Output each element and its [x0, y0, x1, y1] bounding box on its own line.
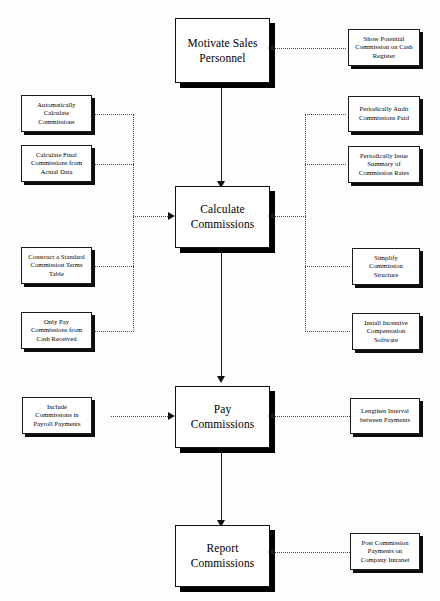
improvement-box-cash-register[interactable]: Show PotentialCommission on CashRegister [348, 29, 420, 66]
improvement-box-cash-received-label: Only PayCommissions fromCash Received [22, 318, 91, 344]
improvement-box-lengthen-label: Lengthen Intervalbetween Payments [351, 407, 419, 424]
connector-summary-rates-branch [305, 164, 346, 165]
improvement-box-intranet[interactable]: Post CommissionPayments onCompany Intran… [350, 533, 420, 570]
improvement-box-auto-calc[interactable]: AutomaticallyCalculateCommissions [21, 95, 92, 132]
improvement-box-payroll-label: IncludeCommissions inPayroll Payments [23, 403, 91, 429]
connector-lengthen-to-pay [274, 416, 350, 417]
connector-left-bus-vertical [133, 114, 134, 332]
improvement-box-standard-terms-label: Construct a StandardCommission TermsTabl… [22, 253, 91, 279]
arrowhead-into-pay [217, 376, 225, 383]
improvement-box-payroll[interactable]: IncludeCommissions inPayroll Payments [22, 397, 92, 434]
improvement-box-final-actual[interactable]: Calculate FinalCommissions fromActual Da… [21, 145, 92, 182]
connector-auto-calc-branch [92, 114, 134, 115]
connector-pay-to-report [221, 448, 222, 524]
connector-cash-received-branch [92, 331, 134, 332]
connector-final-actual-branch [92, 164, 134, 165]
process-box-report-label: ReportCommissions [176, 541, 269, 571]
improvement-box-audit-label: Periodically AuditCommissions Paid [349, 105, 419, 122]
connector-payroll-to-pay [111, 416, 172, 417]
improvement-box-standard-terms[interactable]: Construct a StandardCommission TermsTabl… [21, 247, 92, 284]
improvement-box-cash-register-label: Show PotentialCommission on CashRegister [349, 35, 419, 61]
connector-standard-terms-branch [92, 266, 134, 267]
improvement-box-auto-calc-label: AutomaticallyCalculateCommissions [22, 101, 91, 127]
improvement-box-audit[interactable]: Periodically AuditCommissions Paid [348, 96, 420, 132]
flowchart-canvas: Motivate SalesPersonnel CalculateCommiss… [0, 0, 440, 601]
arrowhead-left-into-calculate [168, 212, 175, 220]
process-box-pay[interactable]: PayCommissions [175, 386, 270, 448]
connector-incentive-software-branch [305, 331, 350, 332]
connector-intranet-to-report [274, 552, 350, 553]
improvement-box-summary-rates-label: Periodically IssueSummary ofCommission R… [349, 152, 419, 178]
process-box-pay-label: PayCommissions [176, 402, 269, 432]
improvement-box-final-actual-label: Calculate FinalCommissions fromActual Da… [22, 151, 91, 177]
process-box-calculate[interactable]: CalculateCommissions [175, 186, 270, 248]
improvement-box-simplify-label: SimplifyCommissionStructure [353, 254, 419, 280]
improvement-box-cash-received[interactable]: Only PayCommissions fromCash Received [21, 312, 92, 349]
process-box-report[interactable]: ReportCommissions [175, 525, 270, 587]
process-box-motivate[interactable]: Motivate SalesPersonnel [175, 18, 270, 83]
arrowhead-into-motivate [268, 44, 275, 52]
improvement-box-summary-rates[interactable]: Periodically IssueSummary ofCommission R… [348, 146, 420, 183]
process-box-motivate-label: Motivate SalesPersonnel [176, 36, 269, 66]
arrowhead-right-into-calculate [268, 212, 275, 220]
arrowhead-right-into-pay [268, 412, 275, 420]
connector-motivate-to-calculate [221, 83, 222, 185]
connector-audit-branch [305, 114, 346, 115]
improvement-box-intranet-label: Post CommissionPayments onCompany Intran… [351, 539, 419, 565]
improvement-box-incentive-software-label: Install IncentiveCompensationSoftware [353, 319, 419, 345]
process-box-calculate-label: CalculateCommissions [176, 202, 269, 232]
improvement-box-lengthen[interactable]: Lengthen Intervalbetween Payments [350, 398, 420, 434]
improvement-box-incentive-software[interactable]: Install IncentiveCompensationSoftware [352, 313, 420, 350]
arrowhead-left-into-pay [168, 412, 175, 420]
connector-simplify-branch [305, 266, 350, 267]
connector-right-bus-into-calculate [274, 216, 306, 217]
connector-right-bus-vertical [305, 114, 306, 332]
arrowhead-into-report-side [268, 548, 275, 556]
connector-left-bus-into-calculate [133, 216, 172, 217]
improvement-box-simplify[interactable]: SimplifyCommissionStructure [352, 248, 420, 285]
connector-calculate-to-pay [221, 248, 222, 380]
connector-cash-register-to-motivate [274, 48, 346, 49]
